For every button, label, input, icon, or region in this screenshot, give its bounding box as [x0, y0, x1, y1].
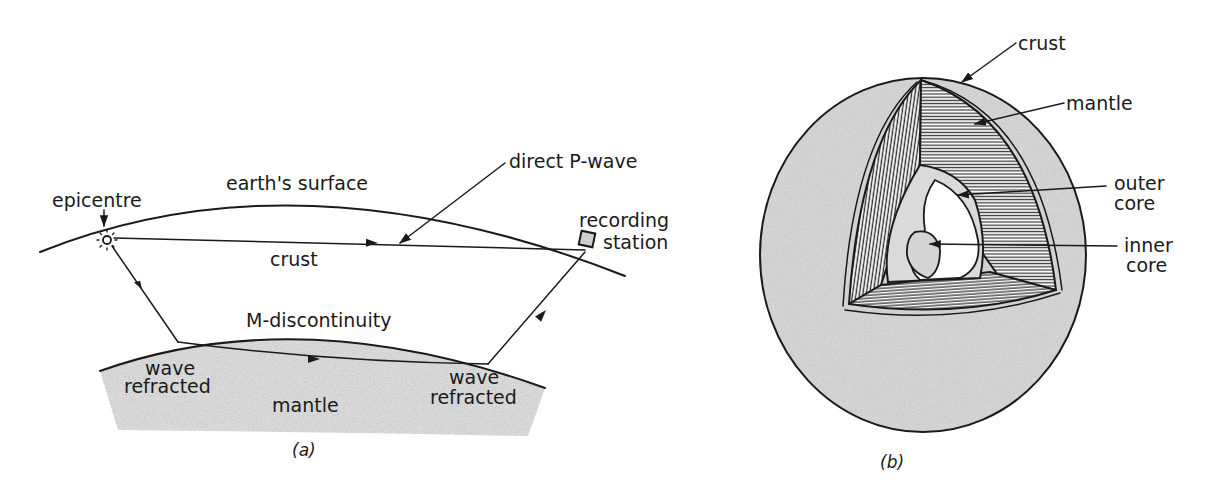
label-refracted-left: refracted — [124, 375, 211, 397]
label-mantle-b: mantle — [1066, 92, 1133, 114]
label-recording: recording — [579, 209, 669, 231]
down-ray — [112, 246, 178, 342]
label-outer: outer — [1114, 172, 1165, 194]
caption-b: (b) — [880, 452, 904, 472]
label-wave-right: wave — [449, 366, 499, 388]
label-epicentre: epicentre — [52, 189, 142, 211]
label-earths-surface: earth's surface — [226, 172, 368, 194]
panel-a-seismic-refraction: epicentre earth's surface direct P-wave … — [40, 150, 669, 460]
caption-a: (a) — [292, 440, 316, 460]
label-station: station — [603, 231, 668, 253]
label-crust: crust — [270, 248, 318, 270]
label-refracted-right: refracted — [430, 386, 517, 408]
crust-leader — [962, 43, 1016, 82]
earth-surface-line — [40, 205, 625, 276]
direct-ray-arrow-icon — [366, 239, 378, 247]
label-inner: inner — [1124, 234, 1173, 256]
label-outer-core: core — [1114, 192, 1155, 214]
epicentre-icon — [97, 230, 117, 250]
direct-ray — [114, 238, 585, 250]
label-inner-core: core — [1126, 254, 1167, 276]
panel-b-earth-interior: crust mantle outer core inner core (b) — [760, 32, 1173, 472]
recording-station-icon — [579, 231, 596, 248]
earth-structure-figure: epicentre earth's surface direct P-wave … — [0, 0, 1215, 499]
up-ray — [488, 252, 585, 364]
label-direct-p-wave: direct P-wave — [509, 150, 637, 172]
label-mantle-a: mantle — [272, 394, 339, 416]
label-m-discontinuity: M-discontinuity — [246, 309, 391, 331]
up-ray-arrow-icon — [535, 307, 549, 321]
label-crust-b: crust — [1018, 32, 1066, 54]
